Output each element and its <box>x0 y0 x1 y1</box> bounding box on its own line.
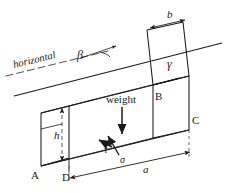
b-dimension <box>150 20 185 28</box>
label-tau: τ <box>104 144 108 155</box>
slab-topface-left-connector <box>69 99 96 106</box>
slope-element-diagram: horizontal β b γ weight h τ σ a A B C D <box>0 0 226 193</box>
label-sigma: σ <box>120 154 126 165</box>
label-a: a <box>143 163 149 175</box>
label-beta: β <box>76 48 83 62</box>
slab-upperright-top-edge <box>147 22 183 30</box>
slab-right-base-edge <box>153 130 189 138</box>
label-horizontal: horizontal <box>12 49 57 70</box>
label-vertex-B: B <box>155 90 162 102</box>
label-vertex-D: D <box>62 171 70 183</box>
a-dimension <box>69 130 190 184</box>
diagram-canvas: horizontal β b γ weight h τ σ a A B C D <box>0 0 226 193</box>
beta-angle-indicator <box>81 46 116 58</box>
label-weight: weight <box>106 93 136 105</box>
slab-left-top-edge <box>41 106 69 113</box>
label-b: b <box>167 8 173 20</box>
slab-upperright-vertical-back <box>147 30 153 85</box>
slab-upperright-vertical-far <box>183 22 189 76</box>
label-vertex-C: C <box>192 114 199 126</box>
slab-base-inner-diagonal <box>41 138 153 166</box>
label-vertex-A: A <box>31 169 39 181</box>
label-h: h <box>54 129 60 141</box>
label-gamma: γ <box>167 57 172 71</box>
